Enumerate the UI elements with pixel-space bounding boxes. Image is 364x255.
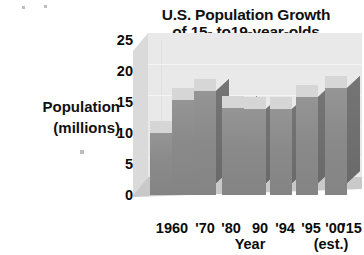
bar-top-face [172, 88, 194, 100]
plot-left-wall [133, 33, 148, 195]
bar-front-face [194, 91, 216, 195]
x-tick-95: '95 [297, 220, 325, 236]
bar-95 [270, 97, 292, 195]
bar-top-face [222, 96, 244, 108]
bar-front-face [150, 133, 172, 195]
bar-1960 [150, 121, 172, 195]
gridline-20 [148, 64, 362, 65]
scan-artifact [80, 150, 84, 154]
y-tick-5: 5 [103, 157, 133, 171]
x-tick-70: '70 [191, 220, 219, 236]
estimate-note: (est.) [302, 236, 360, 252]
bar-15 [325, 76, 347, 195]
x-tick-15: '15 [340, 220, 364, 236]
chart-title-line1: U.S. Population Growth [162, 6, 331, 23]
bar-front-face [222, 108, 244, 195]
x-tick-80: '80 [217, 220, 245, 236]
x-axis-label: Year [215, 236, 285, 252]
y-tick-20: 20 [103, 64, 133, 78]
bar-top-face [150, 121, 172, 133]
bar-side-face [347, 76, 360, 183]
bar-front-face [325, 88, 347, 195]
bar-94 [244, 97, 266, 195]
bar-front-face [244, 109, 266, 195]
bar-00 [296, 85, 318, 195]
y-tick-10: 10 [103, 126, 133, 140]
bar-top-face [270, 97, 292, 109]
x-tick-94: '94 [271, 220, 299, 236]
bar-top-face [244, 97, 266, 109]
bar-front-face [172, 100, 194, 195]
bar-front-face [296, 97, 318, 195]
bar-top-face [194, 79, 216, 91]
bar-70 [172, 88, 194, 195]
bar-top-face [296, 85, 318, 97]
y-tick-25: 25 [103, 33, 133, 47]
bar-90 [222, 96, 244, 195]
x-tick-1960: 1960 [152, 220, 192, 236]
scan-artifact [22, 6, 25, 9]
bar-80 [194, 79, 216, 195]
scan-artifact [44, 5, 47, 8]
bar-front-face [270, 109, 292, 195]
bar-top-face [325, 76, 347, 88]
x-tick-90: 90 [247, 220, 273, 236]
y-tick-0: 0 [103, 188, 133, 202]
y-tick-15: 15 [103, 95, 133, 109]
